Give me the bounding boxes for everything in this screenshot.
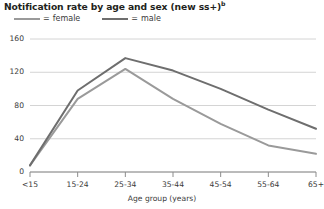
y-tick-label: 80 [0, 101, 24, 110]
x-tick-label: 65+ [308, 180, 324, 189]
series-line-male [30, 58, 316, 165]
x-tick-label: <15 [22, 180, 38, 189]
y-tick-label: 120 [0, 67, 24, 76]
chart-container: Notification rate by age and sex (new ss… [0, 0, 324, 209]
x-tick-label: 15-24 [67, 180, 89, 189]
x-tick-marks [30, 172, 316, 177]
series-line-female [30, 69, 316, 165]
x-tick-label: 55-64 [257, 180, 279, 189]
x-tick-label: 35-44 [162, 180, 184, 189]
y-tick-label: 0 [0, 167, 24, 176]
plot-area: 04080120160 <1515-2425-3435-4445-5455-64… [0, 0, 324, 209]
y-tick-label: 160 [0, 34, 24, 43]
x-tick-label: 25-34 [114, 180, 136, 189]
series-lines [30, 58, 316, 165]
x-tick-label: 45-54 [210, 180, 232, 189]
plot-svg [0, 0, 324, 209]
y-tick-label: 40 [0, 134, 24, 143]
x-axis-title: Age group (years) [0, 194, 324, 203]
